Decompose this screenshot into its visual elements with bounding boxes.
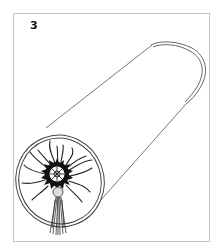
tube-illustration: [0, 0, 223, 250]
tassel: [50, 187, 66, 235]
flower-core: [41, 158, 73, 191]
tube-back-rim: [151, 42, 206, 104]
